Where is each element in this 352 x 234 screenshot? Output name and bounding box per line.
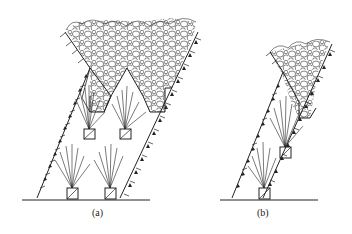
broken-ore-a — [66, 18, 196, 112]
broken-ore-b — [270, 40, 330, 118]
panel-a — [22, 18, 201, 200]
left-wall-a — [37, 32, 90, 198]
panel-b-label: (b) — [257, 207, 269, 218]
mining-diagram-figure: (a) (b) — [0, 0, 352, 234]
diagram-svg — [0, 0, 352, 234]
blasthole-fan-lower-a — [55, 144, 123, 188]
panel-a-label: (a) — [92, 207, 103, 218]
panel-b — [220, 39, 335, 200]
left-wall-b — [232, 52, 283, 198]
